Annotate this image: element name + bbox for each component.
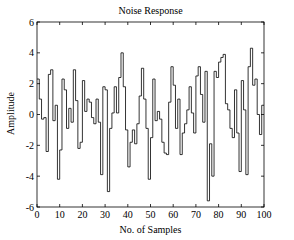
figure: Noise Response Amplitude No. of Samples … — [0, 0, 294, 240]
tick-label: 70 — [191, 209, 201, 220]
tick-label: 0 — [35, 209, 40, 220]
plot-canvas: 0102030405060708090100-6-4-20246 — [0, 0, 294, 240]
tick-label: 30 — [100, 209, 110, 220]
tick-label: 2 — [29, 78, 34, 89]
tick-label: 4 — [29, 47, 34, 58]
tick-label: -4 — [26, 171, 34, 182]
tick-label: 60 — [168, 209, 178, 220]
tick-label: 10 — [55, 209, 65, 220]
tick-label: -2 — [26, 140, 34, 151]
tick-label: 100 — [257, 209, 272, 220]
tick-label: 40 — [123, 209, 133, 220]
tick-label: 90 — [236, 209, 246, 220]
tick-label: 6 — [29, 17, 34, 28]
noise-series-stairs — [37, 48, 264, 201]
tick-label: 0 — [29, 109, 34, 120]
tick-label: -6 — [26, 202, 34, 213]
tick-label: 50 — [146, 209, 156, 220]
tick-label: 20 — [77, 209, 87, 220]
tick-label: 80 — [214, 209, 224, 220]
